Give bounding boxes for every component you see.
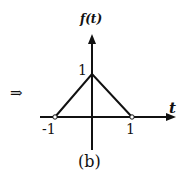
x-axis-label: t [169,99,176,117]
y-tick-label: 1 [78,62,87,78]
caption: (b) [78,152,101,171]
x-tick-label-pos: 1 [126,121,135,137]
open-endpoint-right [130,115,134,119]
implies-arrow: ⇒ [10,84,23,102]
y-axis-arrow-icon [88,34,96,44]
x-tick-label-neg: -1 [42,121,56,137]
y-axis-label: f(t) [80,12,102,26]
open-endpoint-left [53,115,57,119]
triangle-function-line [55,74,132,117]
